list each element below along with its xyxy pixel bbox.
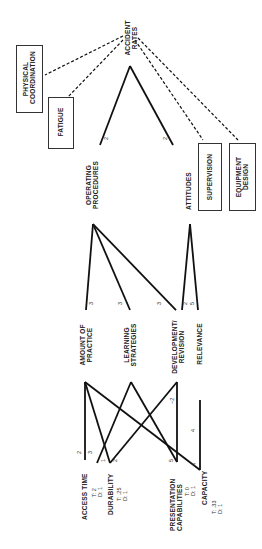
box-equipment-design: EQUIPMENT DESIGN	[229, 143, 256, 211]
weight-relevance-capacity: 4	[191, 429, 197, 432]
node-relevance: RELEVANCE	[197, 322, 204, 366]
presentation-values: T: 0 D: 1	[185, 486, 196, 496]
capacity-label: CAPACITY	[202, 465, 209, 505]
node-accident-rates: ACCIDENT RATES	[125, 18, 138, 58]
physical-coordination-label-2: COORDINATION	[30, 54, 37, 104]
node-presentation-capabilities: PRESENTATION CAPABILITIES	[170, 469, 183, 531]
presentation-label-2: CAPABILITIES	[177, 469, 184, 531]
weight-att-to-top: 2	[163, 137, 169, 140]
weight-att-relevance: 5	[190, 302, 196, 305]
weight-op-amount: 3	[89, 302, 95, 305]
attitudes-label: ATTITUDES	[186, 169, 193, 213]
node-amount-of-practice: AMOUNT OF PRACTICE	[80, 320, 93, 370]
operating-procedures-label-2: PROCEDURES	[93, 154, 100, 216]
equipment-design-label-2: DESIGN	[243, 152, 250, 202]
durability-label: DURABILITY	[108, 465, 115, 515]
weight-op-to-top: 2	[104, 137, 110, 140]
weight-att-development: 2	[183, 302, 189, 305]
learning-label-2: STRATEGIES	[131, 320, 138, 370]
node-learning-strategies: LEARNING STRATEGIES	[124, 320, 137, 370]
accident-rates-label-2: RATES	[132, 18, 139, 58]
weight-presentation: 5	[169, 459, 175, 462]
supervision-label: SUPERVISION	[207, 152, 214, 202]
access-time-d: D: 1	[98, 487, 104, 497]
access-time-values: T: 2 D: 1	[92, 487, 103, 497]
relevance-label: RELEVANCE	[197, 322, 204, 366]
weight-durability-b: 2	[113, 459, 119, 462]
durability-values: T: .25 D: 1	[117, 488, 128, 501]
node-capacity: CAPACITY	[202, 465, 209, 505]
capacity-values: T: .33 D: 1	[212, 501, 223, 514]
node-development-revision: DEVELOPMENT/ REVISION	[172, 316, 185, 378]
box-fatigue: FATIGUE	[48, 97, 74, 149]
node-durability: DURABILITY	[108, 465, 115, 515]
weight-access-a: 2	[77, 451, 83, 454]
weight-capacity: 4	[192, 463, 198, 466]
node-attitudes: ATTITUDES	[186, 169, 193, 213]
weight-op-learning: 3	[118, 302, 124, 305]
weight-durability-a: 1	[101, 459, 107, 462]
node-access-time: ACCESS TIME	[82, 465, 89, 520]
node-operating-procedures: OPERATING PROCEDURES	[86, 154, 99, 216]
durability-d: D: 1	[123, 488, 129, 501]
presentation-d: D: 1	[191, 486, 197, 496]
amount-label-2: PRACTICE	[87, 320, 94, 370]
capacity-d: D: 1	[218, 501, 224, 514]
weight-dev-presentation: −2	[170, 398, 176, 404]
weight-access-b: 3	[88, 451, 94, 454]
development-label-2: REVISION	[179, 316, 186, 378]
box-supervision: SUPERVISION	[198, 143, 222, 211]
fatigue-label: FATIGUE	[58, 102, 65, 142]
box-physical-coordination: PHYSICAL COORDINATION	[16, 45, 43, 113]
access-time-label: ACCESS TIME	[82, 465, 89, 520]
weight-op-development: 3	[157, 302, 163, 305]
